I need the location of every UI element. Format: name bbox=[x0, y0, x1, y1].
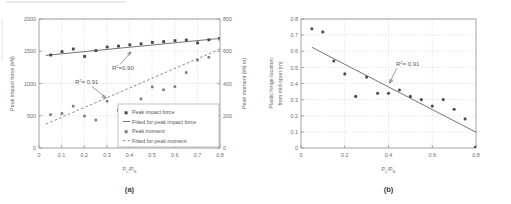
xtick-a-2: 0.2 bbox=[81, 152, 89, 158]
ytick-b-1: 0.1 bbox=[291, 129, 299, 135]
panel-a-xlabel: PL/PN bbox=[123, 166, 137, 174]
xtick-a-0: 0 bbox=[38, 152, 41, 158]
panel-b: 0 0.1 0.2 0.3 0.4 0.5 0.6 0.7 0.8 0 0.2 … bbox=[256, 0, 511, 204]
ytick-b-6: 0.6 bbox=[291, 48, 299, 54]
ytick-a-2000: 2000 bbox=[24, 16, 36, 22]
ytick-a-r-800: 800 bbox=[223, 16, 232, 22]
annotation-r2-moment: R2= 0.91 bbox=[75, 78, 106, 98]
annotation-r2-force: R2=0.90 bbox=[112, 52, 134, 71]
panel-a-ylabel-left: Peak impact force (kN) bbox=[9, 56, 15, 111]
annotation-r2-moment-text: R2= 0.91 bbox=[75, 78, 99, 85]
xtick-b-4: 0.8 bbox=[472, 152, 480, 158]
panel-b-yticks: 0 0.1 0.2 0.3 0.4 0.5 0.6 0.7 0.8 bbox=[291, 16, 305, 151]
xtick-a-3: 0.3 bbox=[103, 152, 111, 158]
xtick-a-6: 0.6 bbox=[171, 152, 179, 158]
ytick-a-1500: 1500 bbox=[24, 48, 36, 54]
xtick-b-3: 0.6 bbox=[429, 152, 437, 158]
xtick-a-7: 0.7 bbox=[194, 152, 202, 158]
panel-a-ylabel-right: Peak moment (kN·m) bbox=[241, 58, 247, 109]
ytick-a-500: 500 bbox=[27, 113, 36, 119]
legend-label-fit-moment: Fitted for peak moment bbox=[132, 138, 187, 144]
ytick-a-r-0: 0 bbox=[223, 145, 226, 151]
ytick-b-5: 0.5 bbox=[291, 65, 299, 71]
ytick-a-r-600: 600 bbox=[223, 48, 232, 54]
ytick-a-r-400: 400 bbox=[223, 81, 232, 87]
figure-container: 0 500 1000 1500 2000 0 200 400 600 800 bbox=[0, 0, 511, 204]
xtick-a-4: 0.4 bbox=[126, 152, 134, 158]
annotation-r2-force-text: R2=0.90 bbox=[112, 64, 134, 71]
xtick-b-0: 0 bbox=[300, 152, 303, 158]
panel-b-svg: 0 0.1 0.2 0.3 0.4 0.5 0.6 0.7 0.8 0 0.2 … bbox=[256, 0, 511, 204]
ytick-b-2: 0.2 bbox=[291, 113, 299, 119]
series-plastic-hinge-location bbox=[310, 27, 477, 149]
panel-b-label: (b) bbox=[384, 185, 394, 194]
panel-a: 0 500 1000 1500 2000 0 200 400 600 800 bbox=[0, 0, 255, 204]
legend-marker-peak-moment bbox=[125, 130, 128, 133]
ytick-b-3: 0.3 bbox=[291, 97, 299, 103]
series-peak-impact-force bbox=[49, 37, 221, 58]
xtick-b-1: 0.2 bbox=[341, 152, 349, 158]
legend-label-fit-impact-force: Fitted for peak impact force bbox=[132, 119, 196, 125]
ytick-a-0: 0 bbox=[33, 145, 36, 151]
annotation-r2-hinge: R2= 0.91 bbox=[390, 60, 421, 83]
xtick-a-1: 0.1 bbox=[58, 152, 66, 158]
xtick-a-5: 0.5 bbox=[148, 152, 156, 158]
panel-b-xlabel: PL/PN bbox=[382, 166, 396, 174]
ytick-b-7: 0.7 bbox=[291, 32, 299, 38]
ytick-b-0: 0 bbox=[295, 145, 298, 151]
xtick-a-8: 0.8 bbox=[216, 152, 224, 158]
panel-b-ylabel-line2: from mid-span (m) bbox=[277, 61, 283, 105]
panel-b-plot-area bbox=[310, 27, 477, 149]
annotation-r2-hinge-text: R2= 0.91 bbox=[396, 60, 420, 67]
xtick-b-2: 0.4 bbox=[385, 152, 393, 158]
panel-b-xticks: 0 0.2 0.4 0.6 0.8 bbox=[300, 145, 480, 158]
panel-a-label: (a) bbox=[125, 185, 135, 194]
legend-label-peak-impact-force: Peak impact force bbox=[132, 109, 174, 115]
fit-line-peak-impact-force bbox=[46, 38, 220, 55]
fit-line-hinge-location bbox=[312, 47, 476, 132]
ytick-b-4: 0.4 bbox=[291, 81, 299, 87]
ytick-a-1000: 1000 bbox=[24, 81, 36, 87]
legend-label-peak-moment: Peak moment bbox=[132, 128, 165, 134]
legend-marker-peak-impact-force bbox=[125, 111, 128, 114]
panel-b-gridlines bbox=[301, 19, 476, 148]
panel-a-svg: 0 500 1000 1500 2000 0 200 400 600 800 bbox=[0, 0, 255, 204]
ytick-b-8: 0.8 bbox=[291, 16, 299, 22]
ytick-a-r-200: 200 bbox=[223, 113, 232, 119]
panel-b-ylabel-line1: Plastic hinge location bbox=[268, 58, 274, 109]
panel-a-legend[interactable]: Peak impact force Fitted for peak impact… bbox=[118, 104, 219, 147]
